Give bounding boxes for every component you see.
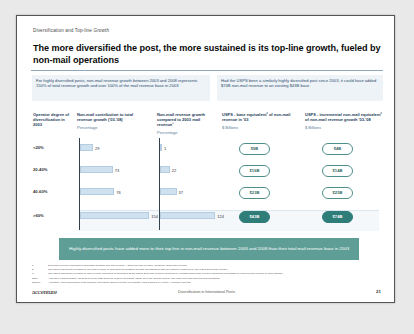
column-header-usps-base-unit: $ Billions	[222, 125, 292, 130]
slide-kicker: Diversification and Top-line Growth	[33, 28, 109, 33]
bar-contribution-value: 76	[116, 190, 120, 195]
subtitle-right: Had the USPS been a similarly highly div…	[217, 75, 383, 101]
bar-growth-value: 1	[164, 146, 166, 151]
column-header-usps-base-label: USPS - base equivalent² of non-mail reve…	[222, 112, 290, 122]
bar-contribution	[80, 188, 114, 195]
column-header-usps-incremental: USPS - incremental non-mail equivalent² …	[305, 112, 383, 130]
column-header-usps-base: USPS - base equivalent² of non-mail reve…	[222, 112, 292, 130]
badge-usps-base: $23B	[239, 187, 270, 199]
bar-growth-value: 37	[179, 190, 183, 195]
column-header-growth-unit: Percentage	[157, 130, 215, 135]
column-header-usps-incremental-label: USPS - incremental non-mail equivalent² …	[305, 112, 382, 122]
column-header-contribution-unit: Percentage	[77, 125, 137, 130]
badge-usps-base: $16B	[239, 165, 270, 177]
title-divider	[31, 70, 383, 71]
bar-contribution-value: 29	[95, 146, 99, 151]
bar-growth	[160, 188, 177, 195]
row-label: 20-40%	[33, 167, 47, 172]
bar-contribution	[80, 144, 93, 151]
row-label: >60%	[33, 213, 44, 218]
footnote-key: 2	[32, 268, 44, 271]
slide-footer: accenture Diversification in Internation…	[17, 282, 395, 296]
badge-usps-incremental: $14B	[322, 165, 353, 177]
row-label: 40-60%	[33, 189, 47, 194]
footnote-row: 2The USPS equivalent in relation to non-…	[32, 268, 384, 271]
footer-subject: Diversification in International Posts	[17, 290, 395, 294]
bar-growth	[160, 166, 170, 173]
badge-usps-base: $9B	[239, 143, 270, 155]
bar-growth	[160, 212, 215, 219]
column-header-contribution-label: Non-mail contribution to total revenue g…	[77, 112, 133, 122]
footnote-key: 3	[32, 272, 44, 275]
row-label: <20%	[33, 145, 44, 150]
bar-contribution-value: 73	[115, 168, 119, 173]
column-header-contribution: Non-mail contribution to total revenue g…	[77, 112, 137, 130]
column-header-diversification: Operator degree of diversification in 20…	[33, 112, 69, 127]
subtitle-left: For highly diversified posts, non-mail r…	[32, 75, 210, 101]
page-number: 21	[376, 289, 381, 294]
footnote-key: Note:	[32, 277, 44, 280]
column-header-diversification-label: Operator degree of diversification in 20…	[33, 112, 69, 127]
column-header-usps-incremental-unit: $ Billions	[305, 125, 383, 130]
presentation-slide: Diversification and Top-line Growth The …	[16, 15, 395, 303]
footnote-row: 3The USPS equivalent in relation to mail…	[32, 272, 384, 275]
bar-growth-value: 22	[172, 168, 176, 173]
footnote-text: The USPS equivalent in relation to non-m…	[48, 268, 384, 271]
footnote-key: 1	[32, 264, 44, 267]
badge-usps-incremental: $74B	[322, 211, 353, 223]
bar-contribution	[80, 212, 149, 219]
footnote-text: The USPS equivalent in relation to mail …	[48, 272, 384, 275]
column-header-growth-label: Non-mail revenue growth compared to 2003…	[157, 112, 205, 127]
badge-usps-incremental: $25B	[322, 187, 353, 199]
badge-usps-incremental: $4B	[322, 143, 353, 155]
page-background: Diversification and Top-line Growth The …	[0, 0, 414, 334]
footnote-text: Analysis excludes finance, as 2003 non-m…	[48, 277, 384, 280]
bar-growth	[160, 144, 162, 151]
footnote-text: 2003 mail revenue equivalent is calculat…	[48, 264, 384, 267]
footnote-row: 12003 mail revenue equivalent is calcula…	[32, 264, 384, 267]
page-title: The more diversified the post, the more …	[33, 43, 381, 66]
callout-banner: Highly diversified posts have added more…	[59, 238, 359, 260]
bar-contribution	[80, 166, 113, 173]
column-header-growth: Non-mail revenue growth compared to 2003…	[157, 112, 215, 135]
footnote-row: Note:Analysis excludes finance, as 2003 …	[32, 277, 384, 280]
bar-growth-value: 124	[217, 214, 224, 219]
chart-area: <20%291$9B$4B20-40%7322$16B$14B40-60%763…	[17, 138, 395, 234]
badge-usps-base: $43B	[239, 211, 270, 223]
bar-contribution-value: 154	[151, 214, 158, 219]
